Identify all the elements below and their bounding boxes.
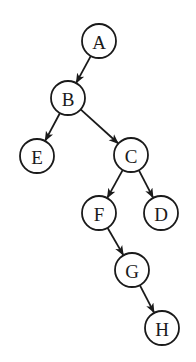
node-label: G xyxy=(125,261,139,282)
node-b: B xyxy=(51,81,85,115)
node-label: D xyxy=(154,204,168,225)
edge-b-e xyxy=(45,113,60,141)
edge-c-f xyxy=(107,170,122,198)
edge-c-d xyxy=(139,170,153,197)
node-g: G xyxy=(115,253,149,287)
node-e: E xyxy=(20,139,54,173)
node-label: E xyxy=(31,147,43,168)
edge-f-g xyxy=(108,228,124,255)
tree-diagram: ABECFDGH xyxy=(0,0,196,362)
nodes-layer: ABECFDGH xyxy=(20,24,179,345)
node-label: H xyxy=(155,319,169,340)
node-d: D xyxy=(144,196,178,230)
edge-g-h xyxy=(140,285,154,312)
node-a: A xyxy=(82,24,116,58)
node-label: F xyxy=(94,204,105,225)
edge-a-b xyxy=(76,56,91,83)
node-label: B xyxy=(62,89,75,110)
node-h: H xyxy=(145,311,179,345)
node-c: C xyxy=(114,138,148,172)
node-f: F xyxy=(82,196,116,230)
node-label: A xyxy=(92,32,106,53)
node-label: C xyxy=(125,146,138,167)
edge-b-c xyxy=(81,109,118,143)
